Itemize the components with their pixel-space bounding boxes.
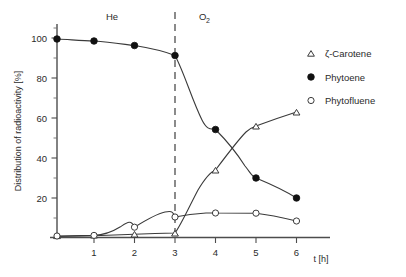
legend-symbol-zeta-carotene (308, 51, 315, 57)
phytoene-point-t4 (212, 126, 219, 133)
line-chart-plot: 100 80 60 40 20 1 2 3 4 5 6 Distribution… (0, 0, 406, 277)
x-tick-label-5: 5 (253, 247, 258, 258)
phytofluene-point-t3 (172, 214, 178, 220)
phytofluene-point-t1 (91, 232, 97, 238)
chart-figure: 100 80 60 40 20 1 2 3 4 5 6 Distribution… (0, 0, 406, 277)
phytofluene-point-t5 (253, 210, 259, 216)
phytofluene-point-t0 (54, 233, 60, 239)
phytoene-point-t5 (253, 175, 260, 182)
y-axis-ticks (52, 28, 58, 218)
phase-label-o2-subscript: 2 (206, 17, 210, 24)
phytofluene-point-t6 (293, 218, 299, 224)
phytoene-point-t6 (293, 195, 300, 202)
y-tick-label-20: 20 (36, 193, 47, 204)
phytoene-points (54, 36, 300, 202)
legend-label-phytofluene: Phytofluene (325, 95, 375, 106)
y-tick-label-80: 80 (36, 73, 47, 84)
y-axis-title: Distribution of radioactivity [%] (13, 71, 23, 192)
legend-symbol-phytofluene (308, 97, 314, 103)
x-tick-label-1: 1 (91, 247, 96, 258)
x-tick-label-3: 3 (172, 247, 177, 258)
x-tick-label-2: 2 (132, 247, 137, 258)
phase-label-he: He (106, 11, 118, 22)
zeta-carotene-point-t5 (253, 123, 260, 129)
x-axis-title: t [h] (313, 254, 328, 264)
phytoene-point-t3 (172, 52, 179, 59)
legend-label-phytoene: Phytoene (325, 72, 365, 83)
y-tick-label-40: 40 (36, 153, 47, 164)
x-axis-ticks (94, 238, 297, 244)
phytoene-point-t0 (54, 36, 61, 43)
x-tick-label-6: 6 (294, 247, 299, 258)
y-tick-label-60: 60 (36, 113, 47, 124)
phytoene-point-t2 (131, 42, 138, 49)
phytoene-point-t1 (91, 38, 98, 45)
y-tick-label-100: 100 (31, 33, 47, 44)
chart-legend: ζ-Carotene Phytoene Phytofluene (308, 48, 376, 106)
phase-label-o2: O 2 (199, 11, 210, 24)
phytofluene-point-t2 (131, 224, 137, 230)
x-tick-label-4: 4 (213, 247, 218, 258)
zeta-carotene-point-t4 (212, 167, 219, 173)
phytoene-curve (57, 39, 297, 198)
legend-symbol-phytoene (308, 74, 315, 81)
phytofluene-point-t4 (212, 210, 218, 216)
legend-label-zeta-carotene: ζ-Carotene (325, 48, 371, 59)
